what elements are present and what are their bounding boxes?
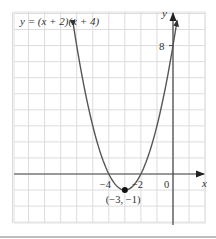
annotations bbox=[122, 187, 128, 193]
y-axis-label: y bbox=[161, 7, 167, 19]
x-tick-label: 0 bbox=[164, 179, 169, 190]
y-tick-label: 8 bbox=[159, 40, 165, 52]
x-axis-label: x bbox=[201, 177, 207, 189]
plot-frame bbox=[14, 12, 205, 223]
labels: y = (x + 2)(x + 4)yx8−4−20(−3, −1) bbox=[19, 7, 207, 206]
chart-title: y = (x + 2)(x + 4) bbox=[19, 15, 99, 28]
x-tick-label: −4 bbox=[100, 179, 112, 190]
grid-lines bbox=[13, 12, 206, 223]
x-tick-label: −2 bbox=[132, 179, 143, 190]
vertex-point bbox=[122, 187, 128, 193]
bottom-divider bbox=[0, 236, 216, 238]
vertex-label: (−3, −1) bbox=[106, 194, 141, 206]
parabola-chart: y = (x + 2)(x + 4)yx8−4−20(−3, −1) bbox=[0, 0, 216, 239]
